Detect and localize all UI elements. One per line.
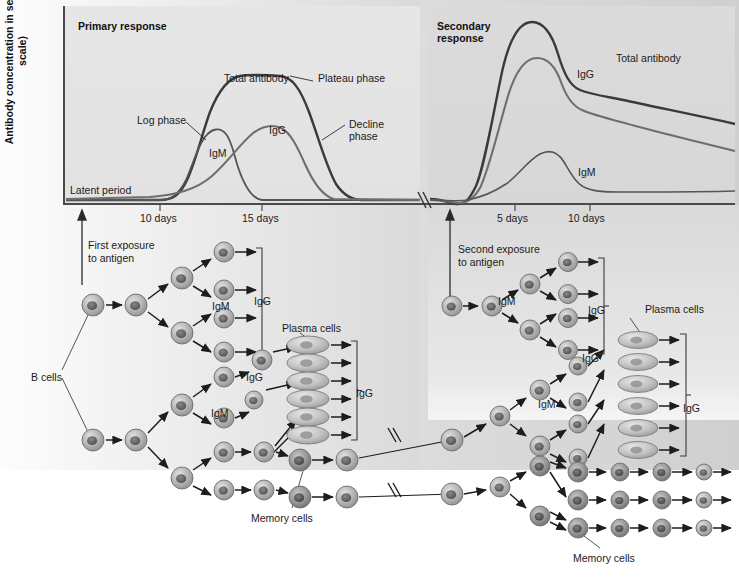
tick-label-10-days-primary: 10 days xyxy=(140,212,177,224)
label-igm-primary: IgM xyxy=(209,147,227,159)
label-left-igm-top: IgM xyxy=(212,300,230,313)
label-right-igg-mid: IgG xyxy=(582,352,599,365)
label-latent-period: Latent period xyxy=(70,184,131,196)
tick-label-10-days-secondary: 10 days xyxy=(568,212,605,224)
label-b-cells: B cells xyxy=(31,371,62,384)
figure-root: Antibody concentration in serum (log sca… xyxy=(0,0,739,577)
label-left-igg-bracket-top: IgG xyxy=(254,295,271,308)
label-right-igg-bracket-top: IgG xyxy=(588,304,605,317)
label-left-igg-bracket-mid: IgG xyxy=(356,387,373,400)
x-axis-line xyxy=(63,203,735,205)
label-right-igm-top: IgM xyxy=(498,295,516,308)
label-left-memory-cells: Memory cells xyxy=(251,512,313,525)
y-axis-line xyxy=(63,6,65,205)
label-igg-secondary: IgG xyxy=(577,68,594,80)
label-log-phase: Log phase xyxy=(137,114,186,126)
tick-label-15-days-primary: 15 days xyxy=(242,212,279,224)
graph-panel-left-bg xyxy=(65,6,420,204)
label-left-igg-mid: IgG xyxy=(246,371,263,384)
secondary-response-title: Secondary response xyxy=(437,20,527,44)
label-right-igm-mid: IgM xyxy=(538,398,556,411)
y-axis-label: Antibody concentration in serum (log sca… xyxy=(3,0,29,146)
label-igg-primary: IgG xyxy=(269,124,286,136)
label-total-antibody-secondary: Total antibody xyxy=(616,52,681,64)
primary-response-title: Primary response xyxy=(78,20,167,32)
label-plateau-phase: Plateau phase xyxy=(318,72,385,84)
label-igm-secondary: IgM xyxy=(578,166,596,178)
label-first-exposure: First exposure to antigen xyxy=(88,239,155,264)
label-left-plasma-cells: Plasma cells xyxy=(282,322,341,335)
label-right-plasma-cells: Plasma cells xyxy=(645,303,704,316)
tick-label-5-days-secondary: 5 days xyxy=(497,212,528,224)
label-second-exposure: Second exposure to antigen xyxy=(458,243,540,268)
y-axis-region: Antibody concentration in serum (log sca… xyxy=(0,0,63,210)
label-decline-phase: Decline phase xyxy=(349,118,395,142)
label-right-igg-bracket-mid: IgG xyxy=(683,402,700,415)
label-left-igm-mid: IgM xyxy=(211,407,229,420)
decline-phase-text: Decline phase xyxy=(349,118,384,142)
label-right-memory-cells: Memory cells xyxy=(573,552,635,565)
label-total-antibody-primary: Total antibody xyxy=(224,72,289,84)
